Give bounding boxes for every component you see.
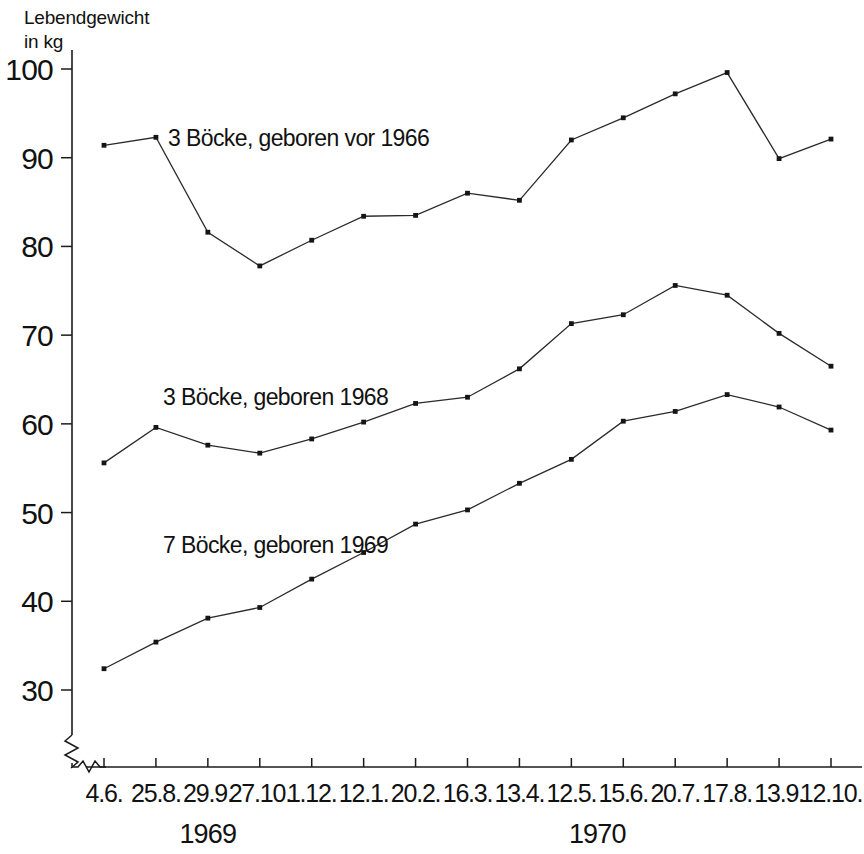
x-tick-label: 20.2. bbox=[391, 779, 441, 807]
data-point-marker bbox=[465, 508, 470, 513]
y-axis-title: Lebendgewicht in kg bbox=[24, 7, 150, 52]
data-point-marker bbox=[621, 312, 626, 317]
series-line bbox=[104, 285, 831, 462]
series-line bbox=[104, 73, 831, 266]
x-tick-label: 12.10. bbox=[800, 779, 862, 807]
series-annotations-group: 3 Böcke, geboren vor 19663 Böcke, gebore… bbox=[163, 125, 429, 558]
y-tick-label: 60 bbox=[21, 408, 53, 441]
data-series-group bbox=[102, 70, 834, 671]
data-point-marker bbox=[673, 409, 678, 414]
x-tick-label: 13.9. bbox=[754, 779, 804, 807]
data-point-marker bbox=[309, 238, 314, 243]
x-axis-tick-labels: 4.6.25.8.29.9.27.10.1.12.12.1.20.2.16.3.… bbox=[86, 779, 863, 807]
y-tick-label: 40 bbox=[21, 585, 53, 618]
data-point-marker bbox=[829, 428, 834, 433]
data-point-marker bbox=[205, 230, 210, 235]
y-tick-label: 30 bbox=[21, 674, 53, 707]
y-tick-label: 80 bbox=[21, 230, 53, 263]
y-axis-group: 10090807060504030 bbox=[5, 50, 78, 768]
y-tick-label: 100 bbox=[5, 53, 53, 86]
y-tick-label: 70 bbox=[21, 319, 53, 352]
data-point-marker bbox=[413, 522, 418, 527]
data-point-marker bbox=[205, 443, 210, 448]
y-axis-title-line1: Lebendgewicht bbox=[24, 7, 150, 28]
data-point-marker bbox=[257, 605, 262, 610]
x-tick-label: 16.3. bbox=[443, 779, 493, 807]
data-point-marker bbox=[413, 401, 418, 406]
x-tick-label: 20.7. bbox=[650, 779, 700, 807]
data-point-marker bbox=[257, 264, 262, 269]
data-point-marker bbox=[569, 457, 574, 462]
y-axis-ticks bbox=[61, 69, 72, 690]
data-point-marker bbox=[257, 451, 262, 456]
data-point-marker bbox=[154, 425, 159, 430]
x-tick-label: 1.12. bbox=[287, 779, 337, 807]
data-point-marker bbox=[154, 135, 159, 140]
x-tick-label: 12.5. bbox=[547, 779, 597, 807]
data-point-marker bbox=[413, 213, 418, 218]
y-axis-title-line2: in kg bbox=[24, 31, 63, 52]
x-tick-label: 12.1. bbox=[339, 779, 389, 807]
data-point-marker bbox=[621, 419, 626, 424]
series-annotation-label: 7 Böcke, geboren 1969 bbox=[163, 532, 388, 558]
data-point-marker bbox=[361, 420, 366, 425]
x-tick-label: 13.4. bbox=[495, 779, 545, 807]
data-point-marker bbox=[621, 115, 626, 120]
data-point-marker bbox=[309, 437, 314, 442]
y-tick-label: 50 bbox=[21, 497, 53, 530]
y-tick-label: 90 bbox=[21, 142, 53, 175]
x-axis-period-label: 1970 bbox=[569, 819, 626, 849]
series-annotation-label: 3 Böcke, geboren vor 1966 bbox=[168, 125, 429, 151]
x-tick-label: 29.9. bbox=[183, 779, 233, 807]
data-point-marker bbox=[102, 143, 107, 148]
data-point-marker bbox=[725, 70, 730, 75]
data-point-marker bbox=[465, 191, 470, 196]
line-chart: 10090807060504030 4.6.25.8.29.9.27.10.1.… bbox=[0, 0, 864, 854]
data-point-marker bbox=[725, 392, 730, 397]
series-2 bbox=[102, 283, 834, 465]
x-tick-label: 17.8. bbox=[702, 779, 752, 807]
data-point-marker bbox=[102, 666, 107, 671]
data-point-marker bbox=[309, 577, 314, 582]
data-point-marker bbox=[777, 156, 782, 161]
x-axis-period-labels: 19691970 bbox=[179, 819, 625, 849]
x-tick-label: 4.6. bbox=[86, 779, 123, 807]
data-point-marker bbox=[829, 137, 834, 142]
chart-container: 10090807060504030 4.6.25.8.29.9.27.10.1.… bbox=[0, 0, 864, 854]
x-tick-label: 25.8. bbox=[131, 779, 181, 807]
data-point-marker bbox=[154, 640, 159, 645]
x-axis-period-label: 1969 bbox=[179, 819, 236, 849]
data-point-marker bbox=[517, 366, 522, 371]
x-tick-label: 15.6. bbox=[598, 779, 648, 807]
data-point-marker bbox=[673, 283, 678, 288]
data-point-marker bbox=[465, 395, 470, 400]
data-point-marker bbox=[725, 293, 730, 298]
x-tick-label: 27.10. bbox=[229, 779, 291, 807]
series-1 bbox=[102, 70, 834, 268]
data-point-marker bbox=[517, 198, 522, 203]
x-axis-group: 4.6.25.8.29.9.27.10.1.12.12.1.20.2.16.3.… bbox=[72, 758, 862, 849]
series-annotation-label: 3 Böcke, geboren 1968 bbox=[163, 384, 388, 410]
data-point-marker bbox=[777, 331, 782, 336]
data-point-marker bbox=[829, 364, 834, 369]
data-point-marker bbox=[361, 214, 366, 219]
data-point-marker bbox=[569, 138, 574, 143]
data-point-marker bbox=[777, 405, 782, 410]
data-point-marker bbox=[517, 481, 522, 486]
data-point-marker bbox=[102, 460, 107, 465]
data-point-marker bbox=[205, 616, 210, 621]
data-point-marker bbox=[673, 91, 678, 96]
x-axis-ticks bbox=[104, 758, 831, 767]
y-axis-tick-labels: 10090807060504030 bbox=[5, 53, 53, 707]
data-point-marker bbox=[569, 321, 574, 326]
